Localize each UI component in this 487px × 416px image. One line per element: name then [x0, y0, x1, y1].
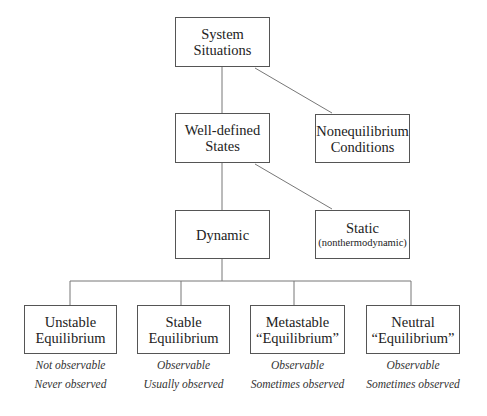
note-neutral-1: Observable: [360, 359, 466, 371]
node-label: Equilibrium: [35, 330, 105, 346]
node-label: States: [205, 138, 240, 154]
node-label: Well-defined: [185, 122, 260, 138]
node-dynamic: Dynamic: [175, 210, 270, 259]
node-well-defined-states: Well-defined States: [175, 113, 270, 163]
node-metastable-equilibrium: Metastable “Equilibrium”: [250, 305, 345, 354]
node-label: Static: [346, 220, 379, 236]
node-nonequilibrium-conditions: Nonequilibrium Conditions: [315, 114, 410, 163]
note-unstable-1: Not observable: [20, 359, 121, 371]
node-label: Unstable: [45, 314, 97, 330]
node-label: Equilibrium: [148, 330, 218, 346]
edge-root-nonequilibrium: [255, 68, 332, 113]
node-label: Dynamic: [196, 227, 249, 243]
node-sublabel: (nonthermodynamic): [318, 236, 407, 249]
node-label: Neutral: [391, 314, 434, 330]
node-label: Nonequilibrium: [316, 123, 409, 139]
node-stable-equilibrium: Stable Equilibrium: [137, 305, 230, 354]
node-unstable-equilibrium: Unstable Equilibrium: [24, 305, 117, 354]
node-label: Stable: [165, 314, 201, 330]
note-neutral-2: Sometimes observed: [360, 378, 466, 390]
edge-well-defined-static: [255, 164, 332, 209]
note-unstable-2: Never observed: [20, 378, 121, 390]
note-stable-2: Usually observed: [131, 378, 236, 390]
node-label: System: [201, 26, 244, 42]
node-neutral-equilibrium: Neutral “Equilibrium”: [366, 305, 460, 354]
node-system-situations: System Situations: [175, 17, 270, 67]
note-metastable-2: Sometimes observed: [244, 378, 351, 390]
note-metastable-1: Observable: [244, 359, 351, 371]
node-label: Situations: [193, 42, 251, 58]
note-stable-1: Observable: [131, 359, 236, 371]
node-label: “Equilibrium”: [372, 330, 455, 346]
node-static: Static (nonthermodynamic): [315, 210, 410, 259]
node-label: “Equilibrium”: [256, 330, 339, 346]
node-label: Metastable: [266, 314, 330, 330]
node-label: Conditions: [331, 139, 395, 155]
